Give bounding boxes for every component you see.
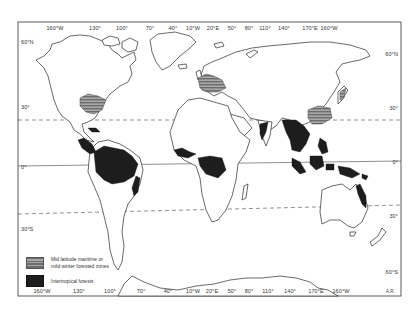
arctic-islands xyxy=(102,36,120,46)
right-tick-label: 60°S xyxy=(386,269,398,275)
greenland xyxy=(150,32,196,70)
bottom-tick-label: 10°W xyxy=(186,288,200,294)
right-tick-label: 0° xyxy=(393,159,398,165)
legend-item-mid-latitude: Mid latitude maritime or mild winter for… xyxy=(26,256,146,270)
bottom-tick-label: 20°E xyxy=(206,288,218,294)
legend-item-intertropical: Intertropical forests xyxy=(26,275,146,287)
top-tick-label: 130° xyxy=(89,25,101,31)
tropical-forest-southeast-asia xyxy=(282,120,310,152)
map-legend: Mid latitude maritime or mild winter for… xyxy=(26,256,146,292)
hatched-zone-china xyxy=(308,106,332,124)
north-america xyxy=(36,35,136,142)
tropical-forest-caribbean xyxy=(88,128,100,132)
top-tick-label: 160°W xyxy=(46,25,63,31)
author-credit: A.R. xyxy=(386,289,395,294)
top-tick-label: 80° xyxy=(245,25,254,31)
hatched-swatch-icon xyxy=(26,257,44,269)
left-tick-label: 30°S xyxy=(21,226,33,232)
tropical-forest-new-guinea xyxy=(338,166,360,178)
right-tick-label: 30° xyxy=(389,105,398,111)
legend-label-mid-latitude: Mid latitude maritime or mild winter for… xyxy=(51,256,109,270)
bottom-tick-label: 40° xyxy=(164,288,173,294)
top-tick-label: 40° xyxy=(169,25,178,31)
tropical-forest-central-america xyxy=(78,138,96,154)
top-tick-label: 110° xyxy=(259,25,270,31)
bottom-tick-label: 140° xyxy=(284,288,296,294)
svalbard xyxy=(214,42,224,48)
iceland xyxy=(178,64,187,69)
bottom-tick-label: 50° xyxy=(228,288,237,294)
tropical-forest-borneo xyxy=(310,156,324,170)
top-tick-label: 70° xyxy=(146,25,155,31)
legend-label-intertropical: Intertropical forests xyxy=(51,278,94,285)
left-tick-label: 30° xyxy=(21,104,30,110)
left-tick-label: 0° xyxy=(21,164,26,170)
tasmania xyxy=(350,232,356,236)
baffin-island xyxy=(122,38,138,52)
top-tick-label: 10°W xyxy=(186,25,200,31)
right-tick-label: 60°N xyxy=(385,51,398,57)
bottom-tick-label: 170°E xyxy=(308,288,324,294)
right-tick-label: 30° xyxy=(389,213,398,219)
bottom-tick-label: 110° xyxy=(262,288,273,294)
legend-label-line1: Mid latitude maritime or xyxy=(51,256,109,263)
tropical-forest-sumatra xyxy=(292,158,306,174)
top-tick-label: 160°W xyxy=(320,25,337,31)
tropical-forest-philippines xyxy=(318,138,328,154)
top-tick-label: 100° xyxy=(116,25,128,31)
left-tick-label: 60°N xyxy=(21,39,34,45)
bottom-tick-label: 80° xyxy=(245,288,254,294)
top-tick-label: 170°E xyxy=(302,25,318,31)
top-tick-label: 50° xyxy=(228,25,237,31)
top-tick-label: 20°E xyxy=(207,25,219,31)
top-tick-label: 140° xyxy=(278,25,290,31)
legend-label-line2: mild winter forested zones xyxy=(51,263,109,270)
new-zealand xyxy=(370,228,386,246)
solid-black-swatch-icon xyxy=(26,275,44,287)
bottom-tick-label: 160°W xyxy=(332,288,349,294)
madagascar xyxy=(242,184,248,200)
